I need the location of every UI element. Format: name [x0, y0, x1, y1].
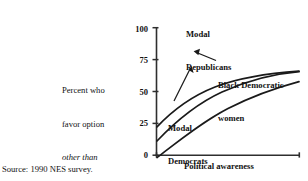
y-tick-label-25: 25 [126, 118, 148, 128]
y-tick-label-100: 100 [126, 24, 148, 34]
y-tick-label-50: 50 [126, 87, 148, 97]
series-label-modal-democrats-line-2: Democrats [168, 156, 208, 167]
y-axis-label-line-2: favor option [62, 119, 128, 130]
y-axis-ticks [153, 28, 159, 156]
series-label-black-democratic-women-line-1: Black Democratic [218, 80, 284, 91]
y-axis-label-line-1: Percent who [62, 85, 128, 96]
series-label-modal-republicans-line-1: Modal [186, 29, 231, 40]
series-label-black-democratic-women-line-2: women [218, 113, 284, 124]
series-label-modal-democrats: Modal Democrats [168, 101, 208, 181]
series-label-modal-democrats-line-1: Modal [168, 123, 208, 134]
source-note: Source: 1990 NES survey. [2, 164, 93, 174]
y-tick-label-75: 75 [126, 55, 148, 65]
chart-figure: 100 75 50 25 0 Percent who favor option … [0, 0, 308, 181]
series-label-black-democratic-women: Black Democratic women [218, 58, 284, 146]
y-tick-label-0: 0 [126, 150, 148, 160]
y-axis-label-line-3: other than [62, 152, 128, 163]
